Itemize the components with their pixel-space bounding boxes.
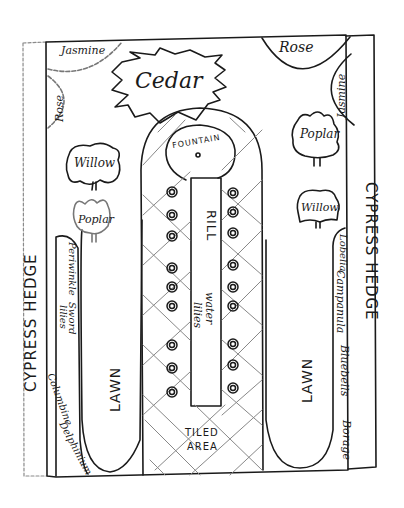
left-lawn-label: LAWN <box>108 367 122 412</box>
fountain-jet-icon <box>196 153 200 157</box>
right-lawn-label: LAWN <box>300 358 314 403</box>
right-bed-plant: Lobelia, <box>338 234 348 275</box>
right-poplar-label: Poplar <box>300 128 339 140</box>
left-hedge-label: CYPRESS HEDGE <box>24 253 39 392</box>
jasmine-label-right: Jasmine <box>336 74 347 118</box>
right-willow-label: Willow <box>301 202 339 213</box>
right-lawn-outline <box>266 228 345 468</box>
water-lilies-label-line2: lilies <box>192 302 203 328</box>
cedar-label: Cedar <box>135 70 203 92</box>
garden-plan: Jasmine Rose Rose Jasmine Cedar Willow P… <box>0 0 404 508</box>
rose-label-left: Rose <box>54 95 65 122</box>
left-willow-label: Willow <box>74 157 115 169</box>
left-lawn-outline <box>81 220 142 472</box>
rose-label-top-right: Rose <box>279 40 313 54</box>
garden-boundary <box>46 35 348 477</box>
rill-label: RILL <box>205 210 218 241</box>
tiled-area-label-line1: TILED <box>185 428 219 438</box>
right-bed-plant: Campanula <box>335 270 346 333</box>
left-poplar-label: Poplar <box>78 214 114 225</box>
left-bed-plant: Periwinkle <box>67 242 77 296</box>
water-lilies-label-line1: water <box>204 292 215 324</box>
left-bed-plant: lilies <box>58 305 68 329</box>
right-planter-rings <box>228 188 238 393</box>
fountain-basin-outline <box>166 125 235 180</box>
right-hedge-label: CYPRESS HEDGE <box>363 182 378 321</box>
right-bed-plant: Bluebells <box>339 345 350 396</box>
jasmine-label-top-left: Jasmine <box>61 45 105 56</box>
tiled-area-label-line2: AREA <box>187 442 218 452</box>
right-bed-plant: Borage <box>341 420 352 460</box>
central-path-outline <box>141 108 263 475</box>
